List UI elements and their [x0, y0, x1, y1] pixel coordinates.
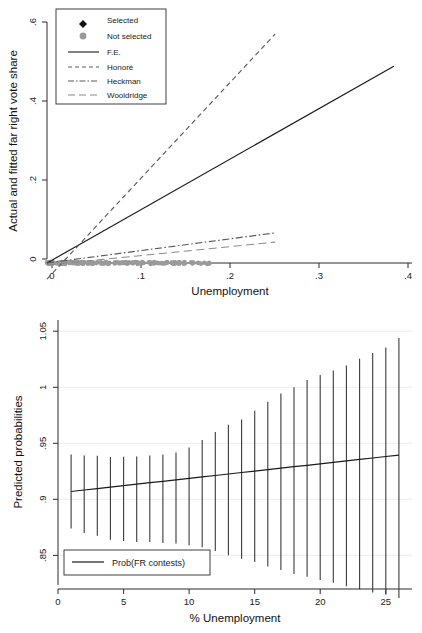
scatter-xtick-1: .1 — [137, 270, 145, 281]
scatter-ytick-2: .4 — [27, 97, 38, 105]
pp-ytick-label-3: 1 — [37, 385, 48, 390]
pp-legend-label: Prob(FR contests) — [112, 558, 185, 568]
scatter-point-not-selected — [106, 262, 111, 267]
pp-ytick-label-4: 1.05 — [37, 322, 48, 341]
pp-x-axis-title: % Unemployment — [190, 612, 282, 624]
legend-label-heckman: Heckman — [107, 77, 141, 86]
scatter-point-not-selected — [89, 261, 94, 266]
pp-legend: Prob(FR contests) — [64, 550, 210, 575]
scatter-point-not-selected — [207, 261, 212, 266]
pp-y-ticks: .85.9.9511.05 — [37, 322, 58, 562]
predicted-probabilities-panel: .85.9.9511.05 0510152025 Predicted proba… — [0, 300, 422, 633]
pp-xtick-label-1: 5 — [121, 596, 126, 607]
scatter-ytick-3: .6 — [27, 18, 38, 26]
scatter-point-not-selected — [159, 261, 164, 266]
pp-xtick-label-5: 25 — [381, 596, 392, 607]
pp-ytick-label-2: .95 — [37, 437, 48, 450]
scatter-point-not-selected — [99, 260, 104, 265]
pp-ytick-label-0: .85 — [37, 549, 48, 562]
legend-circle-icon — [80, 33, 87, 40]
scatter-ytick-0: 0 — [27, 256, 38, 261]
scatter-point-not-selected — [81, 261, 86, 266]
scatter-point-not-selected — [183, 261, 188, 266]
pp-xtick-label-0: 0 — [55, 596, 60, 607]
scatter-point-not-selected — [124, 261, 129, 266]
fit-line-heckman — [47, 233, 275, 263]
predicted-probabilities-svg: .85.9.9511.05 0510152025 Predicted proba… — [0, 300, 422, 633]
pp-y-axis-title: Predicted probabilities — [12, 395, 24, 508]
scatter-x-ticks: 0 .1 .2 .3 .4 — [49, 263, 412, 281]
pp-x-ticks: 0510152025 — [55, 589, 391, 607]
scatter-point-not-selected — [171, 261, 176, 266]
scatter-y-ticks: 0 .2 .4 .6 — [27, 18, 47, 262]
legend-label-wooldridge: Wooldridge — [107, 91, 148, 100]
legend-label-fe: F.E. — [107, 48, 121, 57]
scatter-ytick-1: .2 — [27, 176, 38, 184]
scatter-point-not-selected — [140, 260, 145, 265]
scatter-panel: 0 .2 .4 .6 0 .1 .2 .3 .4 Actual and fitt… — [0, 0, 422, 300]
scatter-point-not-selected — [135, 260, 140, 265]
pp-xtick-label-2: 10 — [184, 596, 195, 607]
scatter-point-not-selected — [164, 260, 169, 265]
pp-trend-line — [71, 455, 399, 491]
scatter-xtick-4: .4 — [404, 270, 412, 281]
scatter-point-not-selected — [131, 260, 136, 265]
scatter-legend: Selected Not selected F.E. Honoré Heckma… — [56, 9, 166, 104]
pp-axes — [58, 320, 412, 589]
scatter-point-not-selected — [155, 261, 160, 266]
pp-xtick-label-3: 15 — [249, 596, 260, 607]
pp-xtick-label-4: 20 — [315, 596, 326, 607]
scatter-point-not-selected — [196, 261, 201, 266]
scatter-point-not-selected — [191, 260, 196, 265]
figure-caption: FIGURE 1 Estimates of vote share and con… — [4, 626, 422, 633]
scatter-point-not-selected — [70, 261, 75, 266]
scatter-x-axis-title: Unemployment — [191, 285, 269, 297]
scatter-plot-svg: 0 .2 .4 .6 0 .1 .2 .3 .4 Actual and fitt… — [0, 0, 422, 300]
pp-ytick-label-1: .9 — [37, 495, 48, 503]
legend-label-honore: Honoré — [107, 63, 134, 72]
legend-label-selected: Selected — [107, 16, 138, 25]
scatter-xtick-2: .2 — [226, 270, 234, 281]
scatter-xtick-3: .3 — [315, 270, 323, 281]
legend-label-not-selected: Not selected — [107, 32, 151, 41]
pp-gridlines — [58, 331, 412, 555]
scatter-y-axis-title: Actual and fitted far right vote share — [7, 50, 19, 232]
scatter-point-not-selected — [147, 260, 152, 265]
